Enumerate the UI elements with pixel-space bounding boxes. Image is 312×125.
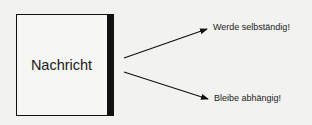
output-label-independent: Werde selbständig! bbox=[213, 22, 290, 32]
arrow-up-icon bbox=[124, 29, 207, 58]
arrow-down-icon bbox=[124, 72, 208, 99]
output-label-dependent: Bleibe abhängig! bbox=[214, 93, 281, 103]
arrows bbox=[0, 0, 312, 125]
